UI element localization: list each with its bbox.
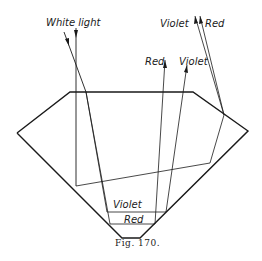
arrow-red-top-icon bbox=[199, 16, 203, 24]
diamond-dispersion-diagram: White light Violet Red Red Violet Violet… bbox=[0, 0, 262, 261]
arrow-white-slanted-icon bbox=[65, 38, 69, 46]
label-violet-mid: Violet bbox=[179, 56, 209, 67]
refracted-ray-red bbox=[86, 92, 110, 224]
figure-caption: Fig. 170. bbox=[115, 238, 160, 248]
label-violet-inner: Violet bbox=[113, 199, 143, 210]
label-white-light: White light bbox=[46, 17, 101, 28]
arrow-violet-top-icon bbox=[194, 16, 198, 24]
exit-ray-red-mid bbox=[155, 60, 165, 224]
label-red-mid: Red bbox=[145, 56, 165, 67]
reflected-ray-upper bbox=[76, 163, 210, 186]
inner-ray-right bbox=[210, 115, 224, 163]
label-red-inner: Red bbox=[124, 214, 144, 225]
exit-ray-violet-mid bbox=[166, 65, 187, 212]
label-red-top: Red bbox=[205, 18, 225, 29]
arrow-white-vertical-icon bbox=[74, 30, 78, 38]
label-violet-top: Violet bbox=[160, 18, 190, 29]
